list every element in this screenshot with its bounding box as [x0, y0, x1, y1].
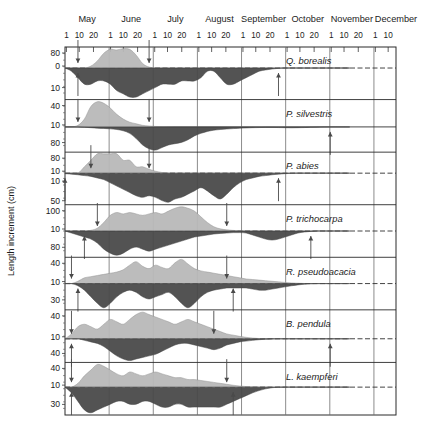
species-label-6: L. kaempferi: [286, 371, 339, 382]
growth-rhythm-chart: MayJuneJulyAugustSeptemberOctoberNovembe…: [0, 0, 432, 431]
arrowhead-up-4-1: [76, 289, 81, 294]
xtick-november-1: 1: [329, 31, 334, 40]
arrowhead-down-2-2: [147, 164, 152, 169]
xtick-september-1: 1: [241, 31, 246, 40]
ytick-0-above-1: 0: [55, 61, 60, 71]
species-label-2: P. abies: [286, 160, 319, 171]
xtick-july-10: 10: [163, 31, 173, 40]
root-area-1: [65, 127, 350, 150]
xtick-september-10: 10: [251, 31, 261, 40]
species-label-3: P. trichocarpa: [286, 213, 343, 224]
xtick-december-1: 1: [373, 31, 378, 40]
xtick-june-20: 20: [133, 31, 143, 40]
xtick-december-10: 10: [384, 31, 394, 40]
arrowhead-down-4-0: [69, 274, 74, 279]
ytick-4-below-0: 30: [50, 295, 60, 305]
root-area-5: [65, 339, 350, 361]
xtick-october-1: 1: [285, 31, 290, 40]
ytick-5-above-1: 10: [50, 332, 60, 342]
arrowhead-up-5-1: [69, 344, 74, 349]
ytick-0-below-0: 10: [50, 83, 60, 93]
month-label-may: May: [78, 14, 96, 24]
ytick-6-above-0: 40: [50, 363, 60, 373]
ytick-2-above-1: 10: [50, 166, 60, 176]
month-label-october: October: [291, 14, 324, 24]
ytick-1-below-0: 80: [50, 138, 60, 148]
xtick-may-10: 10: [75, 31, 85, 40]
ytick-1-above-0: 40: [50, 101, 60, 111]
ytick-2-below-1: 50: [50, 196, 60, 206]
y-axis-title: Length increment (cm): [6, 186, 16, 276]
month-label-september: September: [241, 14, 286, 24]
month-label-november: November: [331, 14, 373, 24]
ytick-3-above-1: 10: [50, 224, 60, 234]
root-area-6: [65, 387, 350, 413]
ytick-2-below-0: 10: [50, 176, 60, 186]
species-label-5: B. pendula: [286, 318, 331, 329]
ytick-5-above-0: 40: [50, 311, 60, 321]
month-label-june: June: [121, 14, 141, 24]
arrowhead-up-5-3: [328, 344, 333, 349]
species-label-4: R. pseudoacacia: [286, 266, 356, 277]
root-area-0: [65, 68, 350, 97]
arrowhead-up-2-0: [63, 178, 68, 183]
arrowhead-down-6-0: [69, 378, 74, 383]
species-label-0: Q. borealis: [286, 55, 332, 66]
arrowhead-down-6-2: [224, 378, 229, 383]
arrowhead-up-1-2: [328, 132, 333, 137]
root-area-2: [65, 173, 350, 202]
arrowhead-down-1-0: [76, 117, 81, 122]
xtick-september-20: 20: [265, 31, 275, 40]
root-area-3: [65, 231, 350, 255]
arrowhead-up-3-3: [308, 236, 313, 241]
arrowhead-up-4-3: [231, 289, 236, 294]
xtick-june-1: 1: [108, 31, 113, 40]
xtick-october-10: 10: [295, 31, 305, 40]
xtick-november-10: 10: [339, 31, 349, 40]
ytick-1-above-1: 10: [50, 120, 60, 130]
xtick-july-20: 20: [177, 31, 187, 40]
figure-root: MayJuneJulyAugustSeptemberOctoberNovembe…: [0, 0, 432, 431]
arrowhead-up-2-3: [276, 178, 281, 183]
arrowhead-down-0-2: [147, 59, 152, 64]
xtick-may-20: 20: [89, 31, 99, 40]
month-label-august: August: [205, 14, 234, 24]
ytick-0-above-0: 80: [50, 48, 60, 58]
species-label-1: P. silvestris: [286, 108, 333, 119]
arrowhead-up-0-3: [276, 73, 281, 78]
ytick-6-below-0: 30: [50, 399, 60, 409]
xtick-august-20: 20: [221, 31, 231, 40]
xtick-june-10: 10: [119, 31, 129, 40]
arrowhead-down-0-0: [76, 59, 81, 64]
xtick-may-1: 1: [64, 31, 69, 40]
ytick-3-above-0: 100: [46, 206, 61, 216]
root-area-4: [65, 283, 350, 307]
arrowhead-down-3-0: [95, 222, 100, 227]
ytick-2-above-0: 80: [50, 153, 60, 163]
ytick-3-below-0: 80: [50, 242, 60, 252]
xtick-august-10: 10: [207, 31, 217, 40]
month-label-july: July: [167, 14, 184, 24]
ytick-4-above-1: 10: [50, 277, 60, 287]
xtick-october-20: 20: [310, 31, 320, 40]
ytick-4-above-0: 40: [50, 258, 60, 268]
xtick-july-1: 1: [152, 31, 157, 40]
ytick-5-below-0: 40: [50, 348, 60, 358]
ytick-6-above-1: 10: [50, 380, 60, 390]
arrowhead-down-1-1: [147, 117, 152, 122]
arrowhead-down-3-2: [224, 222, 229, 227]
xtick-august-1: 1: [197, 31, 202, 40]
month-label-december: December: [375, 14, 417, 24]
xtick-november-20: 20: [354, 31, 364, 40]
